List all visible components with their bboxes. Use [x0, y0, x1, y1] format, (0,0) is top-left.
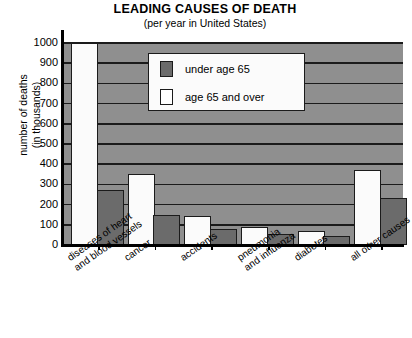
chart-title: LEADING CAUSES OF DEATH [0, 2, 410, 17]
y-tick-label: 400 [14, 158, 58, 169]
bar-under-age-65 [153, 215, 180, 245]
legend: under age 65 age 65 and over [148, 53, 305, 111]
legend-swatch-under-age-65 [160, 61, 173, 77]
legend-item-age-65-and-over: age 65 and over [160, 88, 265, 105]
y-tick-label: 100 [14, 219, 58, 230]
legend-label-age-65-and-over: age 65 and over [185, 91, 265, 103]
y-tick-label: 0 [14, 239, 58, 250]
y-tick-label: 900 [14, 57, 58, 68]
y-tick-label: 600 [14, 118, 58, 129]
y-tick-label: 1000 [14, 37, 58, 48]
legend-item-under-age-65: under age 65 [160, 60, 250, 77]
y-tick-label: 200 [14, 199, 58, 210]
y-axis-line [61, 30, 64, 247]
bar-age-65-and-over [71, 43, 98, 245]
legend-swatch-age-65-and-over [160, 89, 173, 105]
y-tick-label: 700 [14, 98, 58, 109]
chart-title-block: LEADING CAUSES OF DEATH (per year in Uni… [0, 2, 410, 30]
y-tick-label: 500 [14, 138, 58, 149]
legend-label-under-age-65: under age 65 [185, 63, 250, 75]
chart-subtitle: (per year in United States) [0, 17, 410, 30]
y-tick-label: 800 [14, 77, 58, 88]
y-tick-label: 300 [14, 178, 58, 189]
